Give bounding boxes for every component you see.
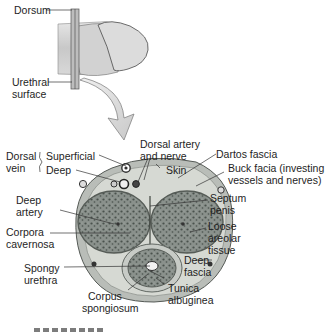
arrow-icon: [80, 78, 134, 140]
label-deep-vein: Deep: [46, 164, 71, 176]
label-tunica-albuginea-1: Tunica: [168, 282, 199, 294]
label-buck-fascia-2: vessels and nerves): [228, 174, 321, 186]
label-septum-penis-2: penis: [210, 204, 235, 216]
label-dorsal-artery-2: and nerve: [140, 150, 187, 162]
label-dartos-fascia: Dartos fascia: [216, 148, 277, 160]
label-dorsal-artery-1: Dorsal artery: [140, 138, 200, 150]
label-urethral-surface-2: surface: [12, 88, 46, 100]
label-corpora-cavernosa-1: Corpora: [6, 226, 44, 238]
label-superficial: Superficial: [46, 150, 95, 162]
label-skin: Skin: [166, 164, 186, 176]
label-deep-artery-1: Deep: [16, 194, 41, 206]
label-corpus-spongiosum-1: Corpus: [88, 290, 122, 302]
label-dorsum: Dorsum: [14, 4, 51, 16]
label-urethral-surface-1: Urethral: [12, 76, 49, 88]
side-view: [58, 9, 148, 89]
label-deep-fascia-2: fascia: [184, 266, 211, 278]
label-deep-fascia-1: Deep: [184, 254, 209, 266]
label-loose-areolar-1: Loose: [208, 220, 237, 232]
label-loose-areolar-2: areolar: [208, 232, 241, 244]
label-deep-artery-2: artery: [16, 206, 43, 218]
label-corpora-cavernosa-2: cavernosa: [6, 238, 54, 250]
label-buck-fascia-1: Buck facia (investing: [228, 162, 324, 174]
label-tunica-albuginea-2: albuginea: [168, 294, 214, 306]
label-spongy-urethra-1: Spongy: [24, 262, 60, 274]
label-spongy-urethra-2: urethra: [24, 274, 57, 286]
label-dorsal-vein-2: vein: [6, 162, 25, 174]
label-septum-penis-1: Septum: [210, 192, 246, 204]
label-loose-areolar-3: tissue: [208, 244, 235, 256]
label-corpus-spongiosum-2: spongiosum: [82, 302, 139, 314]
truncated-caption: [34, 328, 106, 332]
label-dorsal-vein-1: Dorsal: [6, 150, 36, 162]
diagram-canvas: Dorsum Urethral surface Dorsal vein Supe…: [0, 0, 328, 332]
